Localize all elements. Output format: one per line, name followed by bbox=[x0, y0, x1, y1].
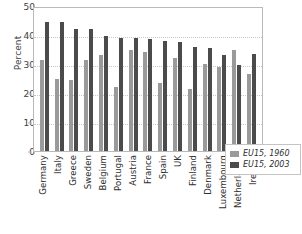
x-axis-label-cell: Sweden bbox=[81, 153, 96, 231]
x-axis-label-cell: Finland bbox=[185, 153, 200, 231]
x-axis-tick-label: Denmark bbox=[203, 155, 213, 195]
plot-area bbox=[33, 7, 263, 152]
bar bbox=[188, 89, 192, 151]
x-axis-label-cell: Portugal bbox=[111, 153, 126, 231]
bar bbox=[74, 29, 78, 151]
x-axis-label-cell: Germany bbox=[36, 153, 51, 231]
x-axis-tick-label: Italy bbox=[53, 155, 63, 174]
legend-swatch bbox=[230, 162, 239, 168]
legend-entry: EU15, 1960 bbox=[230, 148, 300, 159]
x-axis-tick-label: Spain bbox=[158, 155, 168, 179]
x-axis-label-cell: Belgium bbox=[96, 153, 111, 231]
bar bbox=[208, 48, 212, 151]
bar bbox=[84, 60, 88, 151]
bar-group bbox=[81, 8, 96, 151]
bar bbox=[163, 41, 167, 151]
bar bbox=[40, 60, 44, 151]
x-axis-tick-label: Belgium bbox=[98, 155, 108, 191]
bar-group bbox=[229, 8, 244, 151]
x-axis-label-cell: Italy bbox=[51, 153, 66, 231]
bar bbox=[217, 67, 221, 151]
bar bbox=[134, 38, 138, 151]
x-axis-tick-label: Germany bbox=[38, 155, 48, 195]
bar-group bbox=[67, 8, 82, 151]
x-axis-tick-label: Austria bbox=[128, 155, 138, 186]
bar-group bbox=[200, 8, 215, 151]
legend-label: EU15, 1960 bbox=[243, 149, 290, 158]
y-axis-tick-mark bbox=[28, 7, 32, 8]
x-axis-tick-label: Greece bbox=[68, 155, 78, 186]
bar-chart: Percent 01020304050 GermanyItalyGreeceSw… bbox=[0, 0, 302, 234]
bar-group bbox=[111, 8, 126, 151]
bar bbox=[178, 42, 182, 151]
legend-swatch bbox=[230, 151, 239, 157]
bar-group bbox=[155, 8, 170, 151]
x-axis-label-cell: Spain bbox=[156, 153, 171, 231]
bar bbox=[89, 29, 93, 151]
bar-group bbox=[215, 8, 230, 151]
bar bbox=[60, 22, 64, 151]
x-axis-tick-label: Finland bbox=[188, 155, 198, 186]
y-axis-tick-mark bbox=[28, 152, 32, 153]
bar bbox=[99, 55, 103, 151]
bar-group bbox=[126, 8, 141, 151]
y-axis-tick-mark bbox=[28, 36, 32, 37]
bar bbox=[143, 52, 147, 151]
bar bbox=[119, 38, 123, 151]
bar-group bbox=[141, 8, 156, 151]
bar bbox=[104, 36, 108, 151]
bar bbox=[129, 50, 133, 152]
bar bbox=[193, 47, 197, 151]
bar-group bbox=[244, 8, 259, 151]
x-axis-label-cell: Austria bbox=[126, 153, 141, 231]
x-axis-tick-label: France bbox=[143, 155, 153, 184]
x-axis-tick-label: Sweden bbox=[83, 155, 93, 189]
bar-group bbox=[170, 8, 185, 151]
x-axis-label-cell: France bbox=[141, 153, 156, 231]
bar bbox=[158, 83, 162, 151]
bar bbox=[114, 87, 118, 151]
bar-group bbox=[185, 8, 200, 151]
bar bbox=[69, 80, 73, 151]
y-axis-tick-mark bbox=[28, 94, 32, 95]
bar-group bbox=[96, 8, 111, 151]
bar bbox=[173, 58, 177, 151]
bar bbox=[203, 64, 207, 151]
bar bbox=[222, 55, 226, 151]
x-axis-label-cell: UK bbox=[170, 153, 185, 231]
x-axis-label-cell: Denmark bbox=[200, 153, 215, 231]
bar bbox=[232, 50, 236, 151]
bar bbox=[148, 39, 152, 151]
x-axis-tick-label: Portugal bbox=[113, 155, 123, 191]
y-axis-tick-mark bbox=[28, 123, 32, 124]
bar bbox=[55, 79, 59, 152]
bar-groups bbox=[34, 8, 262, 151]
bar-group bbox=[37, 8, 52, 151]
bar-group bbox=[52, 8, 67, 151]
legend-entry: EU15, 2003 bbox=[230, 159, 300, 170]
bar bbox=[247, 74, 251, 151]
legend-label: EU15, 2003 bbox=[243, 160, 290, 169]
x-axis-tick-label: UK bbox=[173, 155, 183, 167]
bar bbox=[237, 65, 241, 151]
bar bbox=[45, 22, 49, 151]
y-axis-tick-mark bbox=[28, 65, 32, 66]
x-axis-label-cell: Greece bbox=[66, 153, 81, 231]
legend: EU15, 1960EU15, 2003 bbox=[225, 144, 301, 175]
bar bbox=[252, 54, 256, 151]
y-axis-title: Percent bbox=[13, 13, 23, 93]
